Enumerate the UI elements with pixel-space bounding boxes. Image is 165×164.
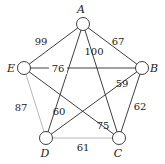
node-a: [77, 18, 90, 31]
node-d: [40, 132, 53, 145]
node-c: [113, 132, 126, 145]
node-label-c: C: [114, 147, 123, 160]
node-label-d: D: [40, 147, 50, 160]
node-label-b: B: [149, 62, 158, 75]
node-label-a: A: [76, 3, 85, 16]
edge-weight-e-c: 75: [97, 120, 110, 131]
edge-weight-e-d: 87: [15, 102, 28, 113]
weighted-graph-diagram: 996710060767587596261 ABCDE: [0, 0, 165, 164]
nodes-layer: ABCDE: [6, 3, 158, 160]
edge-weight-d-c: 61: [77, 142, 90, 153]
edge-weight-e-b: 76: [52, 63, 65, 74]
edge-labels-layer: 996710060767587596261: [15, 36, 147, 153]
node-b: [136, 62, 149, 75]
edge-a-d: [46, 24, 83, 138]
node-e: [18, 62, 31, 75]
edge-weight-a-c: 100: [84, 46, 103, 57]
node-label-e: E: [6, 62, 15, 75]
edge-weight-a-d: 60: [53, 106, 66, 117]
edge-a-e: [24, 24, 83, 68]
edge-weight-b-c: 62: [134, 101, 147, 112]
edge-weight-a-b: 67: [112, 36, 125, 47]
edge-weight-a-e: 99: [35, 36, 48, 47]
edge-weight-b-d: 59: [116, 78, 129, 89]
